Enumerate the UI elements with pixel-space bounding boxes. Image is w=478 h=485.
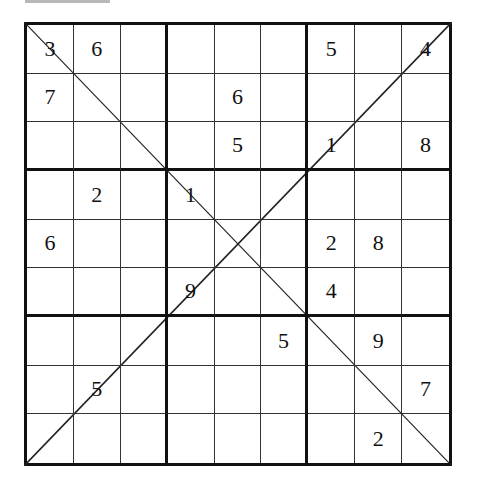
- sudoku-cell-r8c1[interactable]: [27, 366, 74, 415]
- sudoku-cell-r3c2[interactable]: [74, 122, 121, 171]
- sudoku-cell-r1c7[interactable]: 5: [308, 25, 355, 74]
- sudoku-cell-r3c6[interactable]: [261, 122, 308, 171]
- sudoku-cell-r2c2[interactable]: [74, 74, 121, 123]
- sudoku-cell-r6c8[interactable]: [355, 268, 402, 317]
- sudoku-board: 365476518216289459572: [24, 22, 452, 466]
- sudoku-cell-r6c5[interactable]: [215, 268, 262, 317]
- sudoku-cell-r2c8[interactable]: [355, 74, 402, 123]
- sudoku-cell-r1c1[interactable]: 3: [27, 25, 74, 74]
- sudoku-cell-r1c6[interactable]: [261, 25, 308, 74]
- sudoku-cell-r5c7[interactable]: 2: [308, 220, 355, 269]
- sudoku-cell-r2c4[interactable]: [168, 74, 215, 123]
- sudoku-cell-r4c8[interactable]: [355, 171, 402, 220]
- sudoku-cell-r7c7[interactable]: [308, 317, 355, 366]
- sudoku-cell-r2c7[interactable]: [308, 74, 355, 123]
- sudoku-cell-r7c2[interactable]: [74, 317, 121, 366]
- sudoku-cell-r8c6[interactable]: [261, 366, 308, 415]
- sudoku-cell-r9c3[interactable]: [121, 414, 168, 463]
- sudoku-cell-r5c2[interactable]: [74, 220, 121, 269]
- sudoku-cell-r9c5[interactable]: [215, 414, 262, 463]
- sudoku-cell-r6c2[interactable]: [74, 268, 121, 317]
- sudoku-cell-r3c5[interactable]: 5: [215, 122, 262, 171]
- sudoku-cell-r7c8[interactable]: 9: [355, 317, 402, 366]
- sudoku-cell-r9c2[interactable]: [74, 414, 121, 463]
- sudoku-cell-r3c9[interactable]: 8: [402, 122, 449, 171]
- scan-artifact-strip: [25, 0, 110, 3]
- sudoku-cell-r5c4[interactable]: [168, 220, 215, 269]
- sudoku-cell-r2c3[interactable]: [121, 74, 168, 123]
- sudoku-cell-r9c1[interactable]: [27, 414, 74, 463]
- sudoku-cell-r4c7[interactable]: [308, 171, 355, 220]
- sudoku-cell-r7c9[interactable]: [402, 317, 449, 366]
- sudoku-cell-r6c9[interactable]: [402, 268, 449, 317]
- sudoku-cell-r3c1[interactable]: [27, 122, 74, 171]
- sudoku-cell-r5c8[interactable]: 8: [355, 220, 402, 269]
- sudoku-cell-r3c7[interactable]: 1: [308, 122, 355, 171]
- sudoku-cell-r7c1[interactable]: [27, 317, 74, 366]
- sudoku-cell-r8c4[interactable]: [168, 366, 215, 415]
- sudoku-cell-r5c9[interactable]: [402, 220, 449, 269]
- sudoku-cell-r8c3[interactable]: [121, 366, 168, 415]
- sudoku-cell-r1c9[interactable]: 4: [402, 25, 449, 74]
- sudoku-cell-r6c6[interactable]: [261, 268, 308, 317]
- sudoku-cell-r4c2[interactable]: 2: [74, 171, 121, 220]
- sudoku-cell-r9c6[interactable]: [261, 414, 308, 463]
- sudoku-cell-r8c7[interactable]: [308, 366, 355, 415]
- sudoku-cell-r4c3[interactable]: [121, 171, 168, 220]
- sudoku-cell-r4c5[interactable]: [215, 171, 262, 220]
- sudoku-cell-r3c3[interactable]: [121, 122, 168, 171]
- sudoku-cell-r4c4[interactable]: 1: [168, 171, 215, 220]
- sudoku-cell-r6c7[interactable]: 4: [308, 268, 355, 317]
- sudoku-cell-r7c3[interactable]: [121, 317, 168, 366]
- sudoku-cell-r2c6[interactable]: [261, 74, 308, 123]
- sudoku-cell-r1c3[interactable]: [121, 25, 168, 74]
- sudoku-cell-r4c6[interactable]: [261, 171, 308, 220]
- sudoku-cell-r2c1[interactable]: 7: [27, 74, 74, 123]
- sudoku-cell-r9c4[interactable]: [168, 414, 215, 463]
- sudoku-cell-r5c5[interactable]: [215, 220, 262, 269]
- sudoku-cell-r3c4[interactable]: [168, 122, 215, 171]
- sudoku-cell-r8c9[interactable]: 7: [402, 366, 449, 415]
- sudoku-cell-r6c3[interactable]: [121, 268, 168, 317]
- sudoku-cell-r2c9[interactable]: [402, 74, 449, 123]
- sudoku-cell-r1c2[interactable]: 6: [74, 25, 121, 74]
- sudoku-cell-r1c5[interactable]: [215, 25, 262, 74]
- sudoku-cell-r1c8[interactable]: [355, 25, 402, 74]
- sudoku-cell-r4c1[interactable]: [27, 171, 74, 220]
- sudoku-cell-r8c5[interactable]: [215, 366, 262, 415]
- sudoku-cell-r6c1[interactable]: [27, 268, 74, 317]
- sudoku-cell-r2c5[interactable]: 6: [215, 74, 262, 123]
- sudoku-cell-r4c9[interactable]: [402, 171, 449, 220]
- sudoku-cell-r7c6[interactable]: 5: [261, 317, 308, 366]
- sudoku-cell-r9c7[interactable]: [308, 414, 355, 463]
- sudoku-cell-r5c1[interactable]: 6: [27, 220, 74, 269]
- sudoku-cell-r6c4[interactable]: 9: [168, 268, 215, 317]
- sudoku-cell-r9c8[interactable]: 2: [355, 414, 402, 463]
- sudoku-cell-r9c9[interactable]: [402, 414, 449, 463]
- sudoku-cell-r8c2[interactable]: 5: [74, 366, 121, 415]
- sudoku-cell-r1c4[interactable]: [168, 25, 215, 74]
- sudoku-cell-r8c8[interactable]: [355, 366, 402, 415]
- sudoku-cell-r7c4[interactable]: [168, 317, 215, 366]
- sudoku-cell-r5c3[interactable]: [121, 220, 168, 269]
- sudoku-cell-r3c8[interactable]: [355, 122, 402, 171]
- sudoku-cell-r5c6[interactable]: [261, 220, 308, 269]
- sudoku-cell-r7c5[interactable]: [215, 317, 262, 366]
